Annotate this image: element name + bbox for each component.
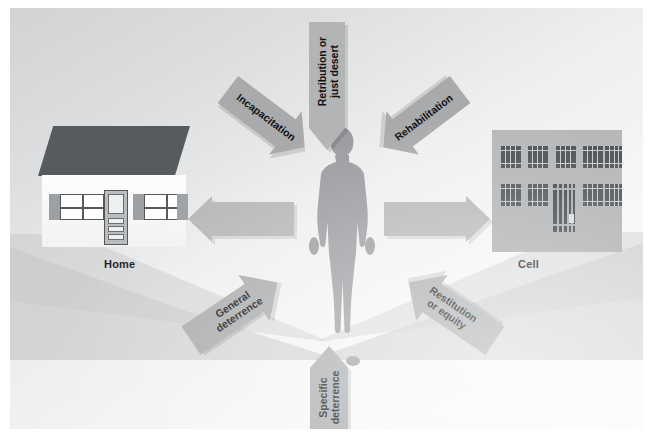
cell-window-top-2 <box>528 146 548 168</box>
house-shutter-right-inner <box>133 194 144 220</box>
arrow-incapacitation: Incapacitation <box>212 80 322 158</box>
cell-window-bottom-2 <box>528 184 548 206</box>
cell-door-knob <box>569 214 574 223</box>
arrow-general-deterrence: General deterrence <box>176 270 294 352</box>
door-panel-top <box>108 194 124 214</box>
cell-window-bottom-1 <box>501 184 521 206</box>
door-panel-2 <box>108 226 124 232</box>
door-panel-1 <box>108 218 124 224</box>
house-window-left <box>60 194 104 220</box>
arrow-rehabilitation: Rehabilitation <box>366 80 476 158</box>
cell-window-bottom-3 <box>583 184 603 206</box>
house-door <box>104 190 128 245</box>
illustration-panel: Home <box>10 8 643 429</box>
arrow-specific-deterrence: Specific deterrence <box>306 344 352 429</box>
cell-window-top-5 <box>605 146 622 168</box>
arrow-specific-deterrence-label: Specific deterrence <box>318 365 341 430</box>
diagram-canvas: Home <box>0 0 653 437</box>
cell-window-top-3 <box>556 146 576 168</box>
door-panel-3 <box>108 234 124 240</box>
home-building <box>38 126 190 254</box>
offender-figure <box>307 126 377 366</box>
house-shutter-left-outer <box>49 194 60 220</box>
arrow-to-cell <box>382 194 492 244</box>
arrow-restitution-equity: Restitution or equity <box>392 270 510 352</box>
cell-window-bottom-4 <box>605 184 622 206</box>
home-label: Home <box>104 258 135 270</box>
cell-label: Cell <box>518 258 539 270</box>
cell-window-top-1 <box>501 146 521 168</box>
house-roof <box>38 126 190 176</box>
cell-door <box>553 184 575 232</box>
cell-building <box>492 130 622 252</box>
arrow-to-home <box>186 194 296 244</box>
cell-window-top-4 <box>583 146 603 168</box>
